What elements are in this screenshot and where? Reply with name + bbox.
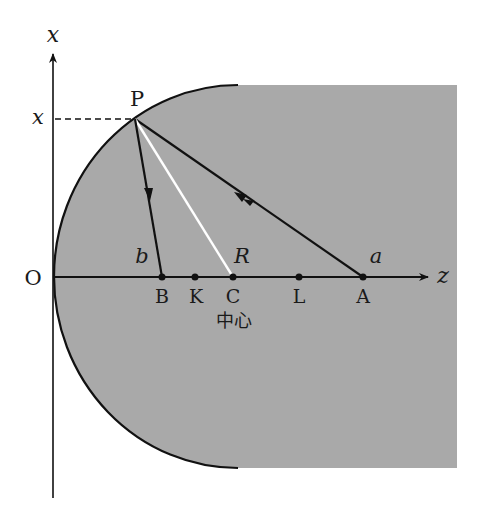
height-label: x xyxy=(32,105,44,129)
z-axis-label: z xyxy=(436,263,449,288)
A-label: A xyxy=(355,285,370,307)
origin-label: O xyxy=(24,266,41,290)
C-label: C xyxy=(226,285,241,307)
x-axis-label: x xyxy=(47,22,60,47)
a-label: a xyxy=(370,244,383,268)
point-K xyxy=(192,274,199,281)
b-label: b xyxy=(135,244,148,268)
point-B xyxy=(159,274,166,281)
refraction-diagram: x z O x P b R a B K C L A 中心 xyxy=(0,0,481,519)
point-P-label: P xyxy=(130,87,144,111)
point-A xyxy=(360,274,367,281)
B-label: B xyxy=(155,285,169,307)
center-caption: 中心 xyxy=(216,310,252,331)
R-label: R xyxy=(233,244,250,268)
K-label: K xyxy=(189,285,204,307)
L-label: L xyxy=(293,285,306,307)
point-C xyxy=(230,274,237,281)
point-L xyxy=(296,274,303,281)
